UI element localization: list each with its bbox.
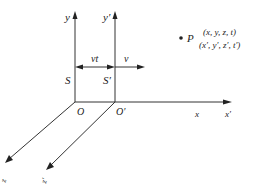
y-axis-arrowhead-icon [73, 11, 78, 19]
velocity-label: v [124, 53, 129, 64]
reference-frames-diagram: y y′ S S′ O O′ x x′ z z′ vt v P (x, y, z… [0, 0, 257, 186]
point-p-coords-s: (x, y, z, t) [203, 27, 236, 37]
frame-s-prime-label: S′ [103, 74, 112, 86]
y-axis-label: y [64, 11, 70, 23]
y-prime-axis-label: y′ [102, 11, 111, 23]
x-axis-arrowhead-icon [223, 100, 232, 105]
origin-o-prime-label: O′ [116, 106, 126, 117]
vt-label: vt [91, 53, 98, 64]
frame-s-label: S [65, 74, 71, 86]
velocity-arrowhead-icon [137, 65, 145, 70]
x-axis-label: x [194, 109, 199, 119]
point-p-dot-icon [179, 36, 183, 40]
origin-o-label: O [77, 106, 84, 117]
z-axis-label: z [0, 177, 8, 184]
vt-left-arrowhead-icon [75, 65, 83, 70]
point-p-coords-s-prime: (x′, y′, z′, t′) [199, 40, 240, 50]
x-prime-axis-label: x′ [224, 109, 232, 119]
vt-right-arrowhead-icon [107, 65, 115, 70]
point-p-label: P [186, 32, 194, 44]
y-prime-axis-arrowhead-icon [113, 11, 118, 19]
z-prime-axis-label: z′ [39, 177, 49, 185]
